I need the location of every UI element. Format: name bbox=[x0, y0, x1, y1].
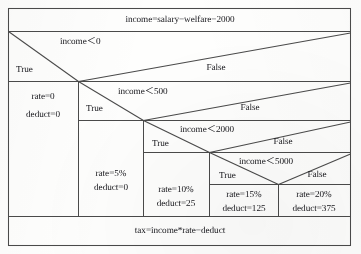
outcome5-rate: rate=20% bbox=[296, 189, 331, 200]
outcome4-deduct: deduct=125 bbox=[223, 203, 266, 214]
decision1-false-diagonal bbox=[79, 33, 351, 82]
condition-income-lt-500: income＜500 bbox=[118, 86, 168, 97]
outcome5-deduct: deduct=375 bbox=[293, 203, 336, 214]
condition-income-lt-0: income＜0 bbox=[60, 36, 100, 47]
assignment-tax: tax=income*rate−deduct bbox=[135, 225, 225, 236]
screenshot-canvas: income=salary−welfare−2000 income＜0 True… bbox=[0, 0, 361, 254]
outcome3-deduct: deduct=25 bbox=[157, 198, 195, 209]
condition-income-lt-5000: income＜5000 bbox=[239, 156, 293, 167]
decision4-true-label: True bbox=[219, 170, 236, 181]
decision2-true-label: True bbox=[86, 103, 103, 114]
outcome4-rate: rate=15% bbox=[226, 189, 261, 200]
outcome3-rate: rate=10% bbox=[158, 184, 193, 195]
decision4-false-label: False bbox=[307, 169, 326, 180]
condition-income-lt-2000: income＜2000 bbox=[180, 124, 234, 135]
outcome1-rate: rate=0 bbox=[31, 91, 54, 102]
decision2-false-label: False bbox=[240, 102, 259, 113]
outcome2-deduct: deduct=0 bbox=[94, 182, 128, 193]
decision1-false-label: False bbox=[206, 62, 225, 73]
decision1-true-label: True bbox=[16, 64, 33, 75]
decision3-true-label: True bbox=[152, 138, 169, 149]
outcome1-deduct: deduct=0 bbox=[26, 109, 60, 120]
assignment-income: income=salary−welfare−2000 bbox=[125, 14, 234, 25]
outcome2-rate: rate=5% bbox=[96, 168, 127, 179]
decision3-false-label: False bbox=[273, 136, 292, 147]
